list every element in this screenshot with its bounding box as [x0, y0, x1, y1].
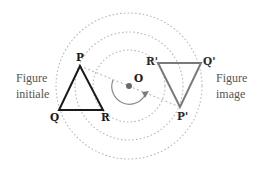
- caption-image-line2: image: [216, 87, 245, 101]
- label-r-prime: R': [146, 55, 158, 67]
- center-point-o: [126, 83, 132, 89]
- rotation-diagram: O P Q R R' Q' P' Figure initiale Figure …: [0, 0, 259, 172]
- caption-initial-line1: Figure: [16, 71, 47, 85]
- label-r: R: [101, 111, 110, 123]
- label-p: P: [76, 51, 84, 63]
- caption-initial-line2: initiale: [16, 87, 49, 101]
- label-o: O: [134, 72, 143, 84]
- label-q: Q: [50, 111, 59, 124]
- label-q-prime: Q': [203, 55, 215, 68]
- caption-image-line1: Figure: [216, 71, 247, 85]
- label-p-prime: P': [177, 110, 188, 122]
- arrowhead-icon: [142, 91, 149, 98]
